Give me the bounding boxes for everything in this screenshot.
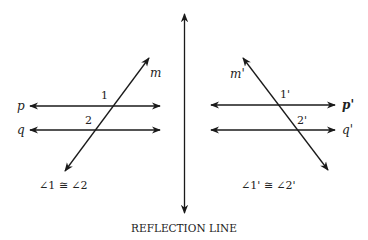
label-m: m [150,66,161,80]
transversal-m-prime [243,58,328,170]
angle-2-label: 2 [85,114,92,127]
angle-1-label: 1 [101,89,108,102]
transversal-m [65,58,149,171]
label-q-prime: q' [342,123,353,137]
label-p-prime: p' [342,98,354,112]
angle-2-prime-label: 2' [297,114,307,127]
congruence-statement: ∠1 ≅ ∠2 [39,179,87,192]
reflection-line-group: REFLECTION LINE [131,14,237,234]
angle-1-prime-label: 1' [280,88,290,101]
label-q: q [17,123,25,137]
label-p: p [17,99,25,113]
reflection-line-label: REFLECTION LINE [131,222,237,234]
label-m-prime: m' [230,67,245,81]
reflection-diagram: m p q 1 2 ∠1 ≅ ∠2 REFLECTION LINE m' p' … [0,0,368,240]
left-figure: m p q 1 2 ∠1 ≅ ∠2 [17,58,161,192]
right-figure: m' p' q' 1' 2' ∠1' ≅ ∠2' [211,58,354,192]
congruence-statement-prime: ∠1' ≅ ∠2' [241,179,295,192]
